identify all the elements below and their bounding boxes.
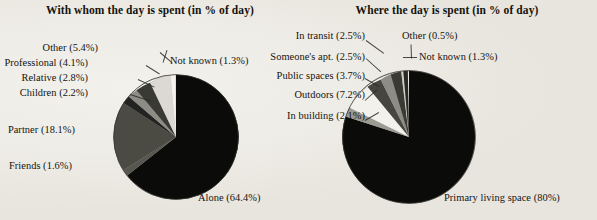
label-someones-apt: Someone's apt. (2.5%) <box>270 51 365 62</box>
label-outdoors: Outdoors (7.2%) <box>294 89 365 100</box>
label-partner: Partner (18.1%) <box>8 124 75 135</box>
label-public-spaces: Public spaces (3.7%) <box>277 70 365 81</box>
leader-line-not-known <box>163 50 168 63</box>
pie-svg-with-whom <box>113 74 239 200</box>
label-not-known: Not known (1.3%) <box>170 55 248 66</box>
pie-chart-where: Where the day is spent (in % of day) <box>297 0 597 220</box>
label-children: Children (2.2%) <box>20 87 88 98</box>
pie-graphic-with-whom <box>113 74 239 200</box>
label-in-transit: In transit (2.5%) <box>296 30 365 41</box>
label-not-known: Not known (1.3%) <box>419 51 497 62</box>
leader-line-in-transit <box>366 40 384 54</box>
figure-panel: With whom the day is spent (in % of day) <box>0 0 597 220</box>
label-primary-living-space: Primary living space (80%) <box>444 192 560 203</box>
label-in-building: In building (2.1%) <box>287 110 365 121</box>
leader-line-professional <box>146 65 160 74</box>
chart-title-with-whom: With whom the day is spent (in % of day) <box>0 4 300 16</box>
label-alone: Alone (64.4%) <box>198 192 260 203</box>
label-friends: Friends (1.6%) <box>9 160 72 171</box>
label-other: Other (5.4%) <box>43 42 98 53</box>
label-relative: Relative (2.8%) <box>21 72 88 83</box>
leader-line-other <box>411 44 412 58</box>
label-other: Other (0.5%) <box>402 30 457 41</box>
label-professional: Professional (4.1%) <box>5 57 88 68</box>
pie-chart-with-whom: With whom the day is spent (in % of day) <box>0 0 300 220</box>
chart-title-where: Where the day is spent (in % of day) <box>297 4 597 16</box>
